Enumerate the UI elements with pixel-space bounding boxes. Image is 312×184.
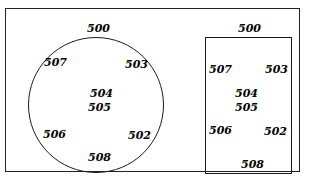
label-rect-504: 504 <box>235 88 258 99</box>
label-circle-500: 500 <box>87 23 110 34</box>
label-rect-508: 508 <box>241 159 264 170</box>
label-rect-505: 505 <box>235 102 258 113</box>
label-rect-502: 502 <box>264 126 287 137</box>
label-circle-503: 503 <box>125 59 148 70</box>
label-rect-507: 507 <box>209 64 232 75</box>
label-circle-507: 507 <box>44 57 67 68</box>
label-rect-506: 506 <box>209 125 232 136</box>
label-circle-505: 505 <box>88 102 111 113</box>
label-circle-504: 504 <box>90 88 113 99</box>
label-circle-508: 508 <box>88 152 111 163</box>
label-rect-503: 503 <box>265 64 288 75</box>
label-rect-500: 500 <box>238 23 261 34</box>
figure-canvas: 500 507 503 504 505 506 502 508 500 507 … <box>0 0 312 184</box>
label-circle-502: 502 <box>128 130 151 141</box>
outer-frame-border: 500 507 503 504 505 506 502 508 500 507 … <box>5 8 300 172</box>
label-circle-506: 506 <box>43 129 66 140</box>
